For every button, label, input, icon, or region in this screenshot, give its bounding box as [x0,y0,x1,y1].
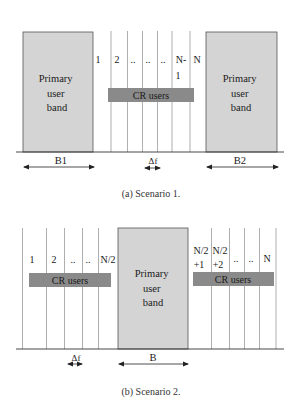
channel-label: +2 [213,259,224,270]
channel-label: .. [86,254,91,265]
channel-label: .. [234,253,239,264]
channel-label: N/2 [213,245,228,256]
channel-label: .. [249,253,254,264]
delta-f-label: Δf [72,353,81,363]
channel-label: .. [161,54,166,65]
scenario-2: Primary user band 12....N/2N/2+1N/2+2...… [16,228,284,398]
channel-label: .. [146,54,151,65]
channel-label: 2 [115,54,120,65]
cr-users-right-label: CR users [215,274,252,285]
channel-label: 2 [52,254,57,265]
channel-label: N- [176,54,187,65]
channel-label: N [263,253,270,264]
bandwidth-b2-label: B2 [234,155,246,166]
delta-f-label: Δf [149,156,158,166]
channel-label: 1 [96,54,101,65]
channel-label: N/2 [194,245,209,256]
channel-label: 1 [30,254,35,265]
channel-label: +1 [194,259,205,270]
cr-users-left-label: CR users [52,275,89,286]
spectrum-diagram: Primary user band Primary user band 12..… [0,0,302,413]
cr-users-label: CR users [133,90,170,101]
channel-label: .. [131,54,136,65]
bandwidth-b1-label: B1 [55,155,67,166]
channel-label: .. [71,254,76,265]
bandwidth-b-label: B [149,352,156,363]
scenario-2-caption: (b) Scenario 2. [121,386,180,398]
scenario-1-caption: (a) Scenario 1. [122,188,181,200]
scenario-1: Primary user band Primary user band 12..… [16,31,284,200]
channel-label: 1 [176,70,181,81]
channel-label: N [193,54,200,65]
channel-label: N/2 [101,254,116,265]
